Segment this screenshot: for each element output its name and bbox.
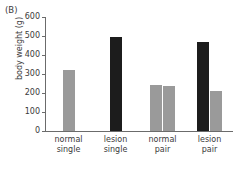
x-axis-group-label-line: single xyxy=(92,145,139,155)
y-axis-tick-mark xyxy=(42,74,45,75)
y-axis-tick-mark xyxy=(42,17,45,18)
x-axis-group-label-line: normal xyxy=(45,135,92,145)
bar xyxy=(150,85,162,131)
bar xyxy=(63,70,75,131)
y-axis-tick-label: 300 xyxy=(25,69,40,78)
y-axis-tick-label: 0 xyxy=(35,126,40,135)
bar xyxy=(110,37,122,131)
x-axis-line xyxy=(45,131,233,132)
bar xyxy=(163,86,175,131)
x-axis-group-label-line: lesion xyxy=(186,135,233,145)
y-axis-tick-label: 500 xyxy=(25,31,40,40)
y-axis-tick-mark xyxy=(42,93,45,94)
y-axis-tick-mark xyxy=(42,55,45,56)
y-axis-title: body weight (g) xyxy=(15,0,24,104)
y-axis-tick-mark xyxy=(42,131,45,132)
x-axis-group-label-line: pair xyxy=(186,145,233,155)
y-axis-tick-label: 200 xyxy=(25,88,40,97)
y-axis-line xyxy=(45,17,46,131)
x-axis-group-label-line: pair xyxy=(139,145,186,155)
y-axis-tick-mark xyxy=(42,112,45,113)
y-axis-tick-mark xyxy=(42,36,45,37)
bar xyxy=(197,42,209,131)
y-axis-tick-label: 100 xyxy=(25,107,40,116)
x-axis-group-label: normalpair xyxy=(139,135,186,154)
figure-panel-b: (B) body weight (g) 0100200300400500600 … xyxy=(0,0,237,169)
plot-area: 0100200300400500600 normalsinglelesionsi… xyxy=(45,17,233,131)
x-axis-group-label-line: normal xyxy=(139,135,186,145)
x-axis-group-label: lesionsingle xyxy=(92,135,139,154)
y-axis-tick-label: 600 xyxy=(25,12,40,21)
x-axis-group-label-line: single xyxy=(45,145,92,155)
bar xyxy=(210,91,222,131)
x-axis-group-label: lesionpair xyxy=(186,135,233,154)
x-axis-group-label: normalsingle xyxy=(45,135,92,154)
y-axis-tick-label: 400 xyxy=(25,50,40,59)
x-axis-group-label-line: lesion xyxy=(92,135,139,145)
